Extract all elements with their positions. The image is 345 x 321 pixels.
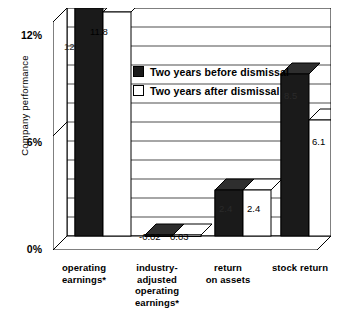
y-tick-label-6: 6% [8,136,42,148]
legend-item-before: Two years before dismissal [128,62,333,81]
plot-area [53,8,331,250]
x-category-line: operating [123,285,191,297]
value-label-return-on-assets-before: 2.4 [219,203,232,214]
x-category-label-return-on-assets: return on assets [194,262,262,285]
value-label-return-on-assets-after: 2.4 [247,203,260,214]
x-category-line: earnings* [50,274,118,286]
y-tick-label-0: 0% [8,243,42,255]
legend-item-after: Two years after dismissal [128,81,333,100]
value-label-stock-return-after: 6.1 [312,136,325,147]
value-label-industry-adjusted-before: -0.02 [139,231,161,242]
legend-label-before: Two years before dismissal [150,66,289,78]
legend-label-after: Two years after dismissal [150,85,280,97]
x-category-line: earnings* [123,297,191,309]
x-category-line: return [194,262,262,274]
chart-figure: Company performance 12% 6% 0% [0,0,345,321]
x-category-line: stock return [262,262,338,274]
x-category-label-operating-earnings: operating earnings* [50,262,118,285]
x-category-line: adjusted [123,274,191,286]
y-axis-title: Company performance [19,26,30,186]
plot-svg [53,8,331,250]
x-category-line: on assets [194,274,262,286]
x-category-label-industry-adjusted: industry- adjusted operating earnings* [123,262,191,308]
value-label-industry-adjusted-after: 0.03 [170,231,189,242]
value-label-operating-earnings-before: 12 [64,41,75,52]
bar-stock-return-after [309,109,331,236]
y-tick-label-12: 12% [8,29,42,41]
chart-legend: Two years before dismissal Two years aft… [128,62,333,100]
legend-swatch-light-icon [133,85,144,96]
x-category-label-stock-return: stock return [262,262,338,274]
x-category-line: operating [50,262,118,274]
value-label-operating-earnings-after: 11.8 [90,26,108,37]
plot-floor [53,236,331,250]
legend-swatch-dark-icon [133,66,144,77]
x-category-line: industry- [123,262,191,274]
